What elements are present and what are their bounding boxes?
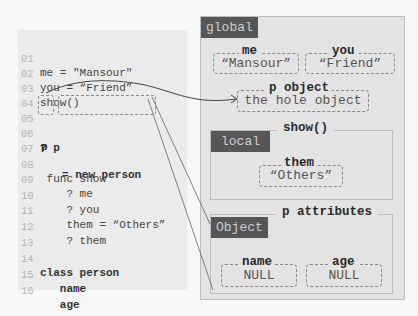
connector-lines (0, 0, 418, 316)
new-person-to-object-line-top (152, 97, 210, 224)
p-to-object-arrow (46, 81, 236, 101)
new-person-to-object-line-bottom (148, 99, 213, 290)
